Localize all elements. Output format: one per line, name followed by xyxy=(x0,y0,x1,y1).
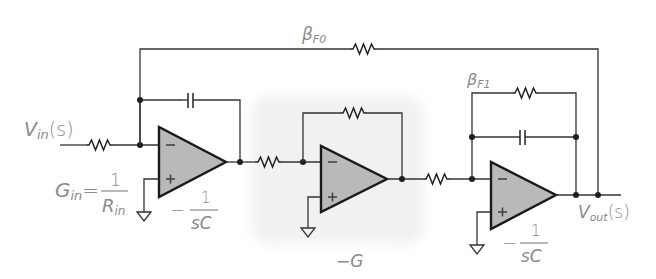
svg-text:1: 1 xyxy=(110,170,121,190)
vin-label: Vin(s) xyxy=(24,118,74,142)
svg-text:Rin: Rin xyxy=(102,195,125,218)
svg-text:1: 1 xyxy=(201,189,211,207)
coupling-resistor-2-icon xyxy=(423,174,450,184)
svg-text:1: 1 xyxy=(531,222,541,240)
inverter-gain-label: −G xyxy=(336,251,363,271)
vout-label: Vout(s) xyxy=(578,202,630,224)
input-resistor-icon xyxy=(86,140,113,150)
ground-icon xyxy=(137,212,151,221)
integrator-1-stage xyxy=(137,93,255,221)
circuit-diagram: βF0 Vin(s) Gin= 1 Rin − 1 s xyxy=(0,0,656,279)
beta-f1-resistor-icon xyxy=(512,88,539,98)
integrator-2-capacitor-icon xyxy=(520,130,525,145)
svg-text:sC: sC xyxy=(191,213,212,233)
input-stage xyxy=(60,140,158,150)
integrator-1-opamp-icon xyxy=(159,127,226,197)
svg-text:−: − xyxy=(170,199,185,220)
integrator-1-capacitor-icon xyxy=(188,93,193,108)
gin-label: Gin= 1 Rin xyxy=(55,170,128,218)
svg-text:−: − xyxy=(502,232,517,253)
svg-text:sC: sC xyxy=(521,246,542,266)
integrator-2-gain-label: − 1 sC xyxy=(502,222,548,266)
integrator-1-gain-label: − 1 sC xyxy=(170,189,218,233)
svg-text:Gin=: Gin= xyxy=(55,178,99,203)
integrator-2-opamp-icon xyxy=(491,162,556,229)
ground-icon xyxy=(470,245,484,254)
beta-f0-resistor-icon xyxy=(350,44,377,54)
beta-f1-label: βF1 xyxy=(466,70,491,91)
beta-f0-label: βF0 xyxy=(301,24,326,46)
